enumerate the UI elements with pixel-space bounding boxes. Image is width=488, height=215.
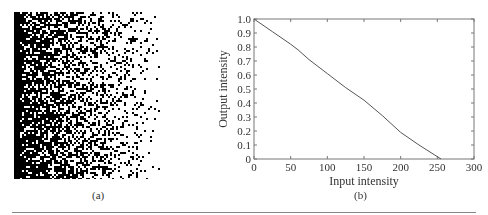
- y-tick-label: 0.1: [237, 139, 251, 151]
- x-axis-label: Input intensity: [329, 174, 399, 188]
- series-line: [254, 19, 441, 159]
- x-tick-label: 50: [285, 161, 297, 173]
- caption-b: (b): [354, 189, 367, 201]
- x-tick-label: 100: [319, 161, 336, 173]
- x-tick-label: 150: [356, 161, 373, 173]
- bottom-divider: [12, 212, 476, 213]
- y-tick-label: 0: [246, 153, 252, 165]
- y-tick-label: 0.6: [237, 69, 251, 81]
- line-chart: 05010015020025030000.10.20.30.40.50.60.7…: [0, 0, 488, 215]
- x-tick-label: 0: [251, 161, 257, 173]
- x-tick-label: 250: [429, 161, 446, 173]
- y-tick-label: 0.8: [237, 41, 251, 53]
- y-tick-label: 0.3: [237, 111, 251, 123]
- y-tick-label: 0.9: [237, 27, 251, 39]
- y-tick-label: 0.7: [237, 55, 251, 67]
- y-tick-label: 0.5: [237, 83, 251, 95]
- y-tick-label: 1.0: [237, 13, 251, 25]
- x-tick-label: 300: [466, 161, 483, 173]
- y-tick-label: 0.4: [237, 97, 251, 109]
- x-tick-label: 200: [392, 161, 409, 173]
- y-tick-label: 0.2: [237, 125, 251, 137]
- y-axis-label: Output intensity: [216, 50, 230, 128]
- plot-frame: [254, 19, 474, 159]
